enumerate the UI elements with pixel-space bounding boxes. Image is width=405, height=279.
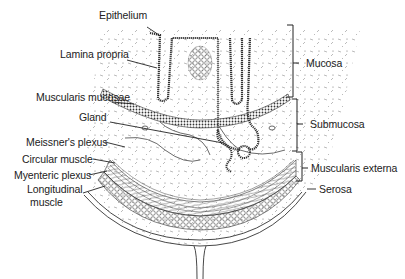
label-mucosa: Mucosa [306, 57, 342, 69]
gut-wall-diagram: Epithelium Lamina propria Muscularis muc… [0, 0, 405, 279]
label-gland: Gland [79, 111, 107, 123]
label-epithelium: Epithelium [99, 9, 147, 21]
label-longitudinal-muscle-line2: muscle [30, 196, 63, 208]
label-myenteric-plexus: Myenteric plexus [14, 169, 91, 181]
label-serosa: Serosa [319, 183, 352, 195]
label-circular-muscle: Circular muscle [22, 153, 93, 165]
lymphoid-nodule [188, 46, 212, 80]
label-muscularis-mucosae: Muscularis mucosae [36, 91, 130, 103]
label-longitudinal-muscle: Longitudinal [27, 183, 82, 195]
label-submucosa: Submucosa [310, 118, 365, 130]
label-muscularis-externa: Muscularis externa [311, 162, 397, 174]
label-meissners-plexus: Meissner's plexus [26, 136, 107, 148]
label-lamina-propria: Lamina propria [60, 48, 129, 60]
